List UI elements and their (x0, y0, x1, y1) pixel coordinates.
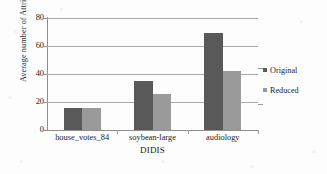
y-tick-mark-40 (43, 74, 47, 75)
scan-artifact (300, 20, 303, 23)
bar-soybean-large-original (134, 81, 153, 130)
legend-leader-line-2 (258, 104, 263, 105)
plot-area (47, 18, 258, 130)
x-axis-separator-2 (188, 130, 189, 134)
x-tick-label-audiology: audiology (188, 133, 258, 143)
legend-swatch-icon-original (263, 68, 267, 72)
bar-soybean-large-reduced (153, 94, 172, 130)
x-axis-title: DIDIS (47, 145, 258, 155)
legend-item-original[interactable]: Original (263, 62, 325, 78)
bar-chart: Average number of Attributes 020406080 h… (0, 0, 327, 174)
x-tick-label-house_votes_84: house_votes_84 (47, 133, 117, 143)
scan-artifact (160, 160, 165, 163)
y-tick-label-0: 0 (26, 126, 44, 134)
bar-audiology-reduced (223, 71, 242, 130)
gridline-60 (47, 46, 258, 47)
x-axis-separator-1 (117, 130, 118, 134)
bar-audiology-original (204, 33, 223, 130)
x-axis-separator-3 (258, 130, 259, 134)
legend-label: Reduced (270, 86, 299, 95)
gridline-0 (47, 130, 258, 131)
scan-artifact (312, 150, 316, 153)
y-tick-label-40: 40 (26, 70, 44, 78)
y-tick-label-80: 80 (26, 14, 44, 22)
scan-artifact (20, 160, 23, 163)
legend-leader-line-1 (258, 68, 263, 69)
x-tick-label-soybean-large: soybean-large (117, 133, 187, 143)
y-tick-label-60: 60 (26, 42, 44, 50)
y-tick-label-20: 20 (26, 98, 44, 106)
legend-item-reduced[interactable]: Reduced (263, 82, 325, 98)
y-tick-mark-60 (43, 46, 47, 47)
scan-artifact (250, 165, 254, 168)
y-axis-tick-labels: 020406080 (24, 0, 44, 174)
legend-swatch-icon-reduced (263, 88, 267, 92)
y-tick-mark-0 (43, 130, 47, 131)
legend-label: Original (270, 66, 297, 75)
gridline-80 (47, 18, 258, 19)
legend: OriginalReduced (263, 62, 325, 102)
bar-house_votes_84-original (64, 108, 83, 130)
scan-artifact (60, 8, 63, 10)
scan-artifact (8, 96, 12, 99)
y-tick-mark-20 (43, 102, 47, 103)
y-tick-mark-80 (43, 18, 47, 19)
bar-house_votes_84-reduced (82, 108, 101, 130)
scan-artifact (14, 30, 17, 33)
